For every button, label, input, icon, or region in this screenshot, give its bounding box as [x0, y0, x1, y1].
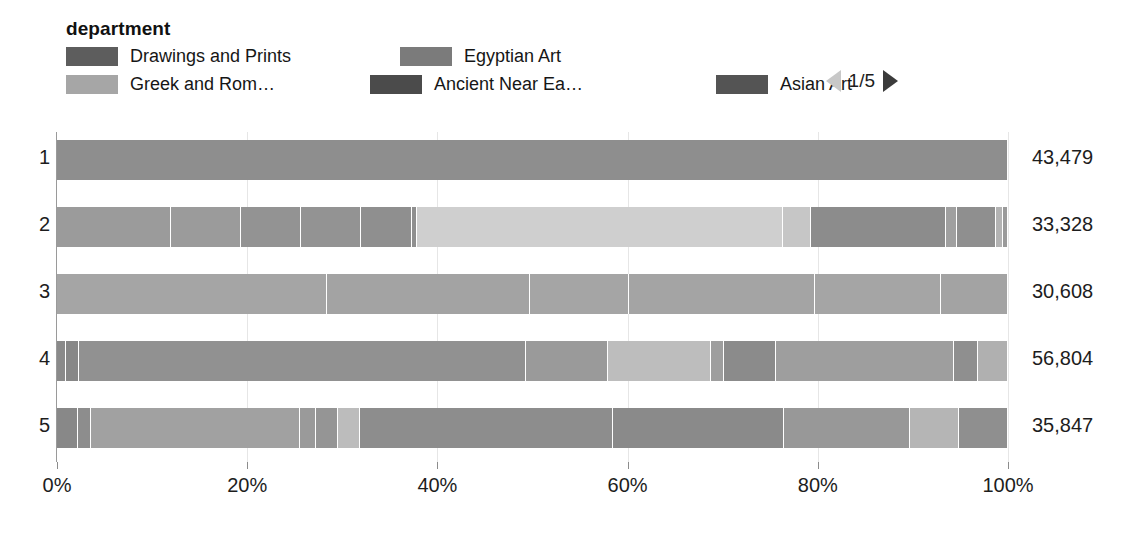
- bar-segment[interactable]: [910, 408, 959, 448]
- bar-segment[interactable]: [1003, 207, 1008, 247]
- x-axis-tick-label: 20%: [227, 474, 267, 497]
- legend-pager: 1/5: [826, 70, 898, 92]
- x-axis-tick: [247, 462, 248, 469]
- legend-label-greek-and-roman: Greek and Rom…: [130, 74, 275, 95]
- bar-row: 233,328: [0, 201, 1134, 251]
- bar-segment[interactable]: [57, 274, 327, 314]
- triangle-right-icon[interactable]: [883, 70, 898, 92]
- legend-swatch-drawings-and-prints: [66, 47, 118, 66]
- x-axis-tick: [818, 462, 819, 469]
- x-axis-tick-label: 100%: [982, 474, 1033, 497]
- stacked-bar[interactable]: [57, 140, 1008, 180]
- bar-segment[interactable]: [946, 207, 956, 247]
- row-total-label: 33,328: [1032, 213, 1093, 236]
- chart-page: department Drawings and Prints Egyptian …: [0, 0, 1134, 545]
- bar-row: 143,479: [0, 134, 1134, 184]
- bar-segment[interactable]: [338, 408, 361, 448]
- bar-segment[interactable]: [301, 207, 361, 247]
- bar-row: 456,804: [0, 335, 1134, 385]
- bar-segment[interactable]: [361, 207, 411, 247]
- bar-row: 535,847: [0, 402, 1134, 452]
- bar-row: 330,608: [0, 268, 1134, 318]
- bar-segment[interactable]: [57, 341, 66, 381]
- bar-segment[interactable]: [327, 274, 530, 314]
- legend-title: department: [66, 18, 1016, 40]
- bar-segment[interactable]: [783, 207, 812, 247]
- x-axis-tick-label: 0%: [43, 474, 72, 497]
- bar-segment[interactable]: [300, 408, 315, 448]
- bar-segment[interactable]: [530, 274, 629, 314]
- bar-segment[interactable]: [241, 207, 301, 247]
- bar-segment[interactable]: [941, 274, 1008, 314]
- stacked-bar[interactable]: [57, 207, 1008, 247]
- legend-swatch-greek-and-roman: [66, 75, 118, 94]
- bar-segment[interactable]: [66, 341, 79, 381]
- bar-segment[interactable]: [316, 408, 338, 448]
- stacked-bar[interactable]: [57, 408, 1008, 448]
- x-axis-tick-label: 60%: [608, 474, 648, 497]
- bar-segment[interactable]: [57, 207, 171, 247]
- bar-segment[interactable]: [724, 341, 776, 381]
- bar-segment[interactable]: [957, 207, 997, 247]
- bar-segment[interactable]: [360, 408, 613, 448]
- legend-item-egyptian-art[interactable]: Egyptian Art: [400, 45, 561, 68]
- x-axis-tick: [1008, 462, 1009, 469]
- legend-label-ancient-near-eastern: Ancient Near Ea…: [434, 74, 583, 95]
- row-label: 1: [22, 146, 50, 169]
- legend-items: Drawings and Prints Egyptian Art Greek a…: [66, 45, 1016, 95]
- bar-segment[interactable]: [954, 341, 979, 381]
- bar-segment[interactable]: [79, 341, 526, 381]
- x-axis-tick: [628, 462, 629, 469]
- row-label: 5: [22, 414, 50, 437]
- row-total-label: 56,804: [1032, 347, 1093, 370]
- bar-segment[interactable]: [811, 207, 946, 247]
- legend-item-greek-and-roman[interactable]: Greek and Rom…: [66, 73, 275, 96]
- bar-segment[interactable]: [996, 207, 1003, 247]
- triangle-left-icon[interactable]: [826, 70, 841, 92]
- bar-segment[interactable]: [57, 140, 1008, 180]
- bar-segment[interactable]: [959, 408, 1008, 448]
- bar-segment[interactable]: [784, 408, 910, 448]
- stacked-bar[interactable]: [57, 341, 1008, 381]
- legend-page-indicator: 1/5: [849, 70, 875, 92]
- x-axis: 0%20%40%60%80%100%: [0, 462, 1134, 502]
- bar-segment[interactable]: [711, 341, 723, 381]
- legend-swatch-ancient-near-eastern: [370, 75, 422, 94]
- row-label: 2: [22, 213, 50, 236]
- legend-label-drawings-and-prints: Drawings and Prints: [130, 46, 291, 67]
- bar-segment[interactable]: [57, 408, 78, 448]
- row-label: 4: [22, 347, 50, 370]
- bar-segment[interactable]: [815, 274, 941, 314]
- stacked-bar[interactable]: [57, 274, 1008, 314]
- row-label: 3: [22, 280, 50, 303]
- legend-item-ancient-near-eastern[interactable]: Ancient Near Ea…: [370, 73, 583, 96]
- bar-segment[interactable]: [629, 274, 815, 314]
- x-axis-tick: [57, 462, 58, 469]
- plot-area: 143,479233,328330,608456,804535,847: [0, 132, 1134, 477]
- bar-segment[interactable]: [171, 207, 241, 247]
- legend-swatch-asian-art: [716, 75, 768, 94]
- bar-segment[interactable]: [91, 408, 300, 448]
- bar-segment[interactable]: [978, 341, 1007, 381]
- row-total-label: 43,479: [1032, 146, 1093, 169]
- row-total-label: 30,608: [1032, 280, 1093, 303]
- bar-segment[interactable]: [776, 341, 954, 381]
- legend-item-drawings-and-prints[interactable]: Drawings and Prints: [66, 45, 291, 68]
- x-axis-tick: [437, 462, 438, 469]
- legend: department Drawings and Prints Egyptian …: [66, 18, 1016, 95]
- legend-label-egyptian-art: Egyptian Art: [464, 46, 561, 67]
- bar-segment[interactable]: [526, 341, 608, 381]
- bar-segment[interactable]: [78, 408, 91, 448]
- x-axis-tick-label: 40%: [417, 474, 457, 497]
- bar-segment[interactable]: [417, 207, 782, 247]
- legend-swatch-egyptian-art: [400, 47, 452, 66]
- bar-segment[interactable]: [608, 341, 712, 381]
- x-axis-tick-label: 80%: [798, 474, 838, 497]
- row-total-label: 35,847: [1032, 414, 1093, 437]
- bar-segment[interactable]: [613, 408, 784, 448]
